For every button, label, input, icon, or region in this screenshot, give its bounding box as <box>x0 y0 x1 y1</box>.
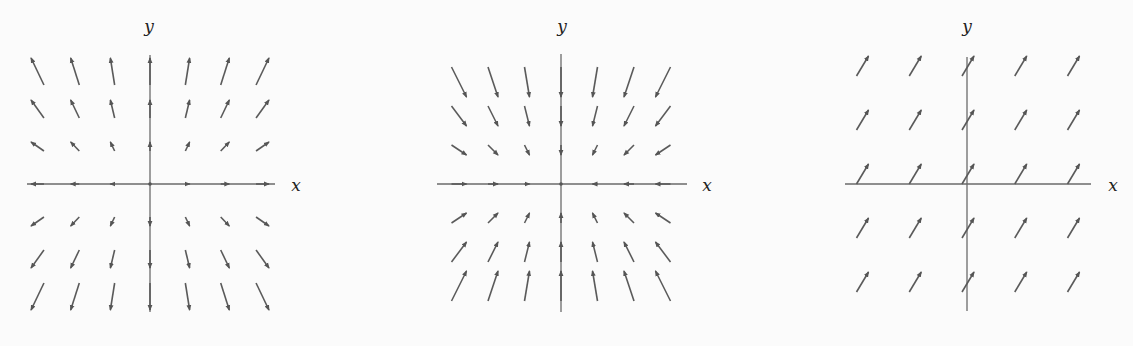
axes <box>437 54 687 312</box>
vector-arrow <box>624 213 634 223</box>
x-axis-label: x <box>1108 175 1118 195</box>
vector-arrow <box>593 242 598 262</box>
vector-arrow <box>452 106 467 126</box>
vector-arrow <box>525 242 530 262</box>
vector-arrow <box>1068 218 1080 238</box>
vector-arrow <box>71 250 80 268</box>
vector-arrow <box>452 67 467 97</box>
vector-arrow <box>185 142 189 151</box>
vector-arrow <box>962 56 974 76</box>
vector-arrow <box>71 58 80 85</box>
vector-arrow <box>110 142 114 151</box>
vector-arrow <box>909 110 921 130</box>
vector-arrow <box>452 213 467 223</box>
vector-arrow <box>1068 110 1080 130</box>
vector-arrow <box>110 58 114 85</box>
vector-arrow <box>1015 272 1027 292</box>
vector-arrow <box>488 242 498 262</box>
vector-arrow <box>221 58 230 85</box>
vector-arrow <box>525 67 530 97</box>
vector-arrow <box>593 271 598 301</box>
vector-arrow <box>962 110 974 130</box>
vector-arrow <box>71 142 80 151</box>
vector-arrow <box>525 271 530 301</box>
vector-arrow <box>452 271 467 301</box>
vector-arrow <box>857 56 869 76</box>
x-axis-label: x <box>702 175 712 195</box>
vector-arrow <box>857 164 869 184</box>
vector-arrow <box>452 242 467 262</box>
vector-arrow <box>31 100 44 118</box>
vector-arrow <box>221 100 230 118</box>
axes <box>845 57 1091 311</box>
plot-source: x y <box>27 16 301 312</box>
vector-arrow <box>593 145 598 155</box>
vector-arrow <box>1015 218 1027 238</box>
vector-arrow <box>624 242 634 262</box>
vector-arrow <box>221 250 230 268</box>
vector-arrow <box>256 58 269 85</box>
vector-arrow <box>71 100 80 118</box>
vector-arrow <box>31 58 44 85</box>
vector-arrow <box>110 283 114 310</box>
vector-arrow <box>256 217 269 226</box>
vector-arrow <box>185 283 189 310</box>
vector-arrow <box>962 218 974 238</box>
vector-arrow <box>593 213 598 223</box>
vector-arrow <box>909 56 921 76</box>
vector-arrow <box>624 67 634 97</box>
vector-arrow <box>185 100 189 118</box>
vector-arrow <box>624 106 634 126</box>
plot-sink: x y <box>437 16 712 312</box>
vector-arrow <box>1015 164 1027 184</box>
vector-arrows <box>857 56 1080 292</box>
vector-arrow <box>110 100 114 118</box>
vector-arrow <box>71 283 80 310</box>
x-axis-label: x <box>291 175 301 195</box>
y-axis-label: y <box>961 16 972 36</box>
vector-arrow <box>525 213 530 223</box>
vector-arrow <box>256 142 269 151</box>
vector-arrow <box>656 242 671 262</box>
vector-arrow <box>31 142 44 151</box>
vector-arrow <box>488 145 498 155</box>
vector-arrow <box>488 213 498 223</box>
vector-arrow <box>857 110 869 130</box>
vector-arrow <box>221 283 230 310</box>
vector-arrow <box>488 271 498 301</box>
vector-arrow <box>857 218 869 238</box>
vector-field-figure: x y x y x y <box>0 0 1133 346</box>
vector-arrow <box>1015 110 1027 130</box>
vector-arrow <box>185 250 189 268</box>
vector-arrow <box>624 271 634 301</box>
vector-arrow <box>221 142 230 151</box>
vector-arrow <box>221 217 230 226</box>
vector-arrow <box>185 58 189 85</box>
vector-arrow <box>71 217 80 226</box>
vector-arrow <box>656 271 671 301</box>
vector-arrow <box>31 250 44 268</box>
vector-arrow <box>909 218 921 238</box>
vector-arrow <box>1068 272 1080 292</box>
vector-arrow <box>488 106 498 126</box>
vector-arrow <box>656 145 671 155</box>
vector-arrow <box>857 272 869 292</box>
vector-arrow <box>593 106 598 126</box>
vector-arrow <box>525 145 530 155</box>
vector-arrow <box>962 164 974 184</box>
plot-constant: x y <box>845 16 1118 311</box>
vector-arrow <box>1068 56 1080 76</box>
vector-arrow <box>909 164 921 184</box>
vector-arrow <box>256 100 269 118</box>
vector-arrow <box>185 217 189 226</box>
vector-arrow <box>593 67 598 97</box>
vector-arrow <box>909 272 921 292</box>
vector-arrow <box>110 250 114 268</box>
vector-arrow <box>624 145 634 155</box>
axes <box>27 55 275 312</box>
vector-arrow <box>31 217 44 226</box>
vector-arrow <box>110 217 114 226</box>
vector-arrow <box>1015 56 1027 76</box>
vector-arrow <box>452 145 467 155</box>
vector-arrow <box>256 250 269 268</box>
